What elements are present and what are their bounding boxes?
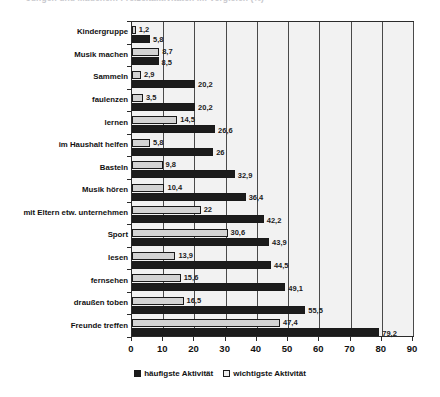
bar-haeufigste [132, 148, 213, 156]
bar-haeufigste [132, 261, 271, 269]
x-axis-tick [225, 337, 226, 341]
bar-value-label: 5,8 [153, 138, 163, 147]
bar-value-label: 44,5 [274, 261, 289, 270]
bar-haeufigste [132, 238, 269, 246]
bar-haeufigste [132, 283, 285, 291]
bar-group: 13,944,5 [132, 248, 413, 271]
gridline [413, 22, 414, 336]
legend-swatch-icon [134, 370, 141, 377]
bar-value-label: 22 [204, 205, 212, 214]
x-axis-tick-label: 30 [219, 343, 230, 354]
y-axis-tick [127, 179, 131, 180]
x-axis-tick [412, 337, 413, 341]
x-axis-tick-label: 50 [282, 343, 293, 354]
bar-group: 47,479,2 [132, 315, 413, 338]
bar-wichtigste [132, 26, 136, 34]
bar-group: 14,526,6 [132, 112, 413, 135]
bar-wichtigste [132, 184, 164, 192]
y-axis-tick [127, 66, 131, 67]
x-axis: 0102030405060708090 [131, 337, 414, 355]
bar-value-label: 13,9 [178, 251, 193, 260]
x-axis-tick [287, 337, 288, 341]
x-axis-tick [193, 337, 194, 341]
x-axis-tick [381, 337, 382, 341]
y-axis-tick [127, 21, 131, 22]
bar-group: 10,436,4 [132, 180, 413, 203]
category-label: lernen [2, 118, 128, 127]
bar-group: 30,643,9 [132, 225, 413, 248]
bar-value-label: 20,2 [198, 80, 213, 89]
x-axis-tick [256, 337, 257, 341]
y-axis-tick [127, 247, 131, 248]
category-label: faulenzen [2, 95, 128, 104]
bar-haeufigste [132, 328, 379, 336]
y-axis-tick [127, 314, 131, 315]
y-axis-tick [127, 111, 131, 112]
chart-title-strip: Jungen und Mädchen: Freizeitaktivitäten … [0, 0, 440, 11]
y-axis-tick [127, 156, 131, 157]
bar-haeufigste [132, 80, 195, 88]
y-axis-tick [127, 44, 131, 45]
bar-value-label: 20,2 [198, 103, 213, 112]
category-label: fernsehen [2, 276, 128, 285]
bar-value-label: 30,6 [231, 228, 246, 237]
x-axis-tick-label: 40 [251, 343, 262, 354]
bar-chart: Jungen und Mädchen: Freizeitaktivitäten … [0, 0, 440, 397]
bar-group: 15,649,1 [132, 270, 413, 293]
y-axis-tick [127, 89, 131, 90]
y-axis-tick [127, 269, 131, 270]
bar-group: 9,832,9 [132, 157, 413, 180]
bar-value-label: 16,5 [187, 296, 202, 305]
bar-value-label: 43,9 [272, 238, 287, 247]
y-axis-tick [127, 202, 131, 203]
bar-value-label: 10,4 [167, 183, 182, 192]
category-label: Sammeln [2, 72, 128, 81]
bar-haeufigste [132, 170, 235, 178]
chart-title: Jungen und Mädchen: Freizeitaktivitäten … [26, 0, 264, 3]
bar-group: 3,520,2 [132, 90, 413, 113]
x-axis-tick-label: 90 [407, 343, 418, 354]
category-label: Freunde treffen [2, 321, 128, 330]
x-axis-tick-label: 20 [188, 343, 199, 354]
chart-legend: häufigste Aktivitätwichtigste Aktivität [0, 366, 440, 380]
legend-label: wichtigste Aktivität [233, 369, 306, 378]
bar-value-label: 8,7 [162, 47, 172, 56]
category-label: Musik hören [2, 185, 128, 194]
bar-haeufigste [132, 125, 215, 133]
category-label: lesen [2, 253, 128, 262]
category-label: Kindergruppe [2, 27, 128, 36]
bar-wichtigste [132, 71, 141, 79]
x-axis-tick [350, 337, 351, 341]
bar-value-label: 49,1 [288, 284, 303, 293]
bar-group: 2,920,2 [132, 67, 413, 90]
x-axis-tick-label: 10 [157, 343, 168, 354]
bar-wichtigste [132, 94, 143, 102]
legend-item: wichtigste Aktivität [223, 369, 306, 378]
bar-wichtigste [132, 319, 280, 327]
x-axis-tick-label: 0 [128, 343, 133, 354]
bar-wichtigste [132, 229, 228, 237]
bar-wichtigste [132, 48, 159, 56]
plot-area: 1,25,88,78,52,920,23,520,214,526,65,8269… [131, 21, 414, 337]
x-axis-tick [162, 337, 163, 341]
bar-wichtigste [132, 161, 163, 169]
category-label: draußen toben [2, 298, 128, 307]
bar-group: 5,826 [132, 135, 413, 158]
bar-wichtigste [132, 116, 177, 124]
y-axis-tick [127, 337, 131, 338]
bar-group: 16,555,5 [132, 293, 413, 316]
y-axis-tick [127, 134, 131, 135]
category-label: mit Eltern etw. unternehmen [2, 208, 128, 217]
category-axis: KindergruppeMusik machenSammelnfaulenzen… [0, 21, 128, 337]
category-label: Basteln [2, 163, 128, 172]
x-axis-tick-label: 60 [313, 343, 324, 354]
bar-value-label: 42,2 [267, 216, 282, 225]
bar-value-label: 26 [216, 148, 224, 157]
legend-item: häufigste Aktivität [134, 369, 213, 378]
x-axis-tick-label: 70 [344, 343, 355, 354]
bar-value-label: 1,2 [139, 25, 149, 34]
bar-haeufigste [132, 35, 150, 43]
bar-wichtigste [132, 252, 175, 260]
bar-haeufigste [132, 215, 264, 223]
bar-value-label: 14,5 [180, 115, 195, 124]
